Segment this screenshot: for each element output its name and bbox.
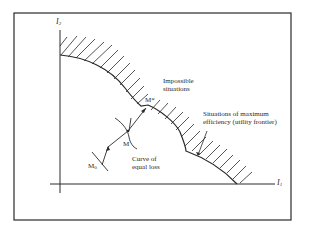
point-m-label: M	[123, 140, 129, 148]
equal-loss-line-2: equal loss	[132, 163, 160, 171]
impossible-region-label: Impossible situations	[163, 77, 194, 93]
y-axis-label-sub: 2	[59, 21, 62, 26]
frontier-line-1: Situations of maximum	[203, 110, 277, 118]
x-axis-label: I1	[277, 179, 282, 189]
point-m0-label: M0	[88, 162, 97, 172]
frontier-annotation: Situations of maximum efficiency (utilit…	[203, 110, 277, 126]
impossible-line-2: situations	[163, 85, 194, 93]
point-m-star-label: M*	[145, 96, 155, 104]
x-axis-label-sub: 1	[280, 182, 283, 187]
impossible-line-1: Impossible	[163, 77, 194, 85]
point-m0-sub: 0	[94, 165, 97, 170]
equal-loss-annotation: Curve of equal loss	[132, 155, 160, 171]
frontier-line-2: efficiency (utility frontier)	[203, 118, 277, 126]
point-m	[127, 130, 130, 133]
arrow-head-2	[141, 108, 146, 113]
equal-loss-line-1: Curve of	[132, 155, 160, 163]
y-axis-label: I2	[56, 18, 61, 28]
arrow-head-1	[106, 146, 110, 151]
